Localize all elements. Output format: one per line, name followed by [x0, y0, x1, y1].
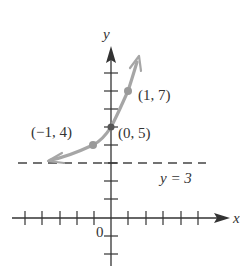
graph: y x 0 (1, 7) (−1, 4) (0, 5) y = 3 — [0, 0, 240, 277]
x-axis — [12, 211, 230, 225]
point-1-7 — [124, 87, 132, 95]
y-axis-label: y — [101, 26, 110, 42]
y-axis — [104, 46, 118, 266]
origin-label: 0 — [96, 224, 104, 240]
point-neg1-4 — [89, 141, 97, 149]
asymptote-label: y = 3 — [158, 170, 192, 186]
point-label-1-7: (1, 7) — [138, 87, 171, 104]
x-axis-label: x — [232, 210, 240, 226]
point-label-0-5: (0, 5) — [118, 125, 151, 142]
point-0-5 — [108, 124, 115, 131]
point-label-neg1-4: (−1, 4) — [31, 124, 72, 141]
